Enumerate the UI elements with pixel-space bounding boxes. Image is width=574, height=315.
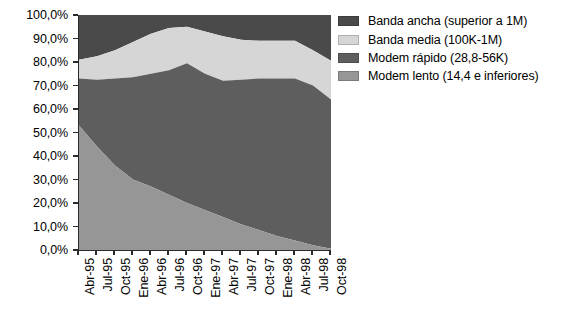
legend-item[interactable]: Banda ancha (superior a 1M) <box>338 12 574 30</box>
y-tick-label: 20,0% <box>33 196 68 210</box>
x-tick-mark <box>203 250 204 255</box>
x-tick-mark <box>221 250 222 255</box>
legend-label: Modem rápido (28,8-56K) <box>368 51 508 65</box>
y-tick-mark <box>73 226 78 227</box>
x-tick-mark <box>167 250 168 255</box>
x-axis: Abr-95Jul-95Oct-95Ene-96Abr-96Jul-96Oct-… <box>0 250 574 315</box>
legend-label: Banda ancha (superior a 1M) <box>368 14 527 28</box>
stacked-area-chart: 0,0%10,0%20,0%30,0%40,0%50,0%60,0%70,0%8… <box>0 0 574 315</box>
x-tick-mark <box>113 250 114 255</box>
y-tick-label: 70,0% <box>33 79 68 93</box>
y-tick-label: 100,0% <box>26 8 68 22</box>
x-tick-mark <box>239 250 240 255</box>
y-tick-label: 40,0% <box>33 149 68 163</box>
x-tick-mark <box>311 250 312 255</box>
x-tick-mark <box>257 250 258 255</box>
x-tick-label: Abr-97 <box>227 258 241 295</box>
y-tick-mark <box>73 202 78 203</box>
y-tick-mark <box>73 132 78 133</box>
area-series-group <box>79 15 331 250</box>
chart-legend: Banda ancha (superior a 1M)Banda media (… <box>338 12 574 86</box>
y-tick-mark <box>73 155 78 156</box>
y-tick-label: 10,0% <box>33 220 68 234</box>
legend-swatch-icon <box>338 71 359 81</box>
x-tick-label: Abr-98 <box>299 258 313 295</box>
legend-swatch-icon <box>338 16 359 26</box>
y-tick-mark <box>73 179 78 180</box>
x-tick-label: Oct-98 <box>335 258 349 295</box>
y-tick-label: 60,0% <box>33 102 68 116</box>
y-tick-mark <box>73 14 78 15</box>
legend-label: Modem lento (14,4 e inferiores) <box>368 69 539 83</box>
legend-swatch-icon <box>338 53 359 63</box>
x-tick-label: Jul-98 <box>317 258 331 291</box>
x-tick-label: Oct-95 <box>119 258 133 295</box>
x-tick-label: Jul-96 <box>173 258 187 291</box>
x-tick-label: Jul-95 <box>101 258 115 291</box>
y-tick-mark <box>73 108 78 109</box>
x-tick-mark <box>329 250 330 255</box>
x-tick-label: Ene-96 <box>137 258 151 298</box>
x-tick-mark <box>131 250 132 255</box>
legend-item[interactable]: Modem rápido (28,8-56K) <box>338 49 574 67</box>
legend-item[interactable]: Banda media (100K-1M) <box>338 30 574 48</box>
legend-label: Banda media (100K-1M) <box>368 33 502 47</box>
y-tick-label: 30,0% <box>33 173 68 187</box>
x-tick-mark <box>185 250 186 255</box>
x-tick-label: Ene-97 <box>209 258 223 298</box>
legend-item[interactable]: Modem lento (14,4 e inferiores) <box>338 67 574 85</box>
x-tick-mark <box>149 250 150 255</box>
x-tick-mark <box>293 250 294 255</box>
x-tick-label: Jul-97 <box>245 258 259 291</box>
x-tick-label: Abr-96 <box>155 258 169 295</box>
y-tick-label: 90,0% <box>33 32 68 46</box>
plot-area <box>78 15 331 251</box>
x-tick-mark <box>77 250 78 255</box>
y-tick-mark <box>73 61 78 62</box>
y-tick-mark <box>73 38 78 39</box>
y-tick-mark <box>73 85 78 86</box>
x-tick-mark <box>275 250 276 255</box>
x-tick-label: Ene-98 <box>281 258 295 298</box>
y-tick-mark <box>73 249 78 250</box>
legend-swatch-icon <box>338 35 359 45</box>
x-tick-label: Oct-96 <box>191 258 205 295</box>
x-tick-label: Abr-95 <box>83 258 97 295</box>
y-tick-label: 50,0% <box>33 126 68 140</box>
x-tick-mark <box>95 250 96 255</box>
x-tick-label: Oct-97 <box>263 258 277 295</box>
y-tick-label: 80,0% <box>33 55 68 69</box>
